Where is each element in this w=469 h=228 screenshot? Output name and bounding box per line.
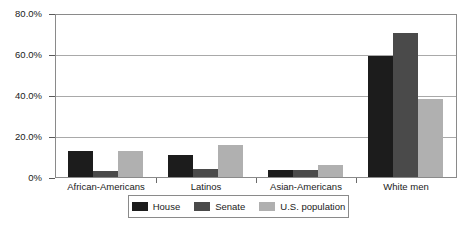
bar-chart: 80.0% 60.0% 40.0% 20.0% 0% [0,0,469,228]
x-axis-label-white-men: White men [356,181,456,193]
bar-house [168,155,193,177]
y-tick-label: 0% [28,173,42,183]
bar-house [68,151,93,177]
chart-legend: House Senate U.S. population [128,195,349,218]
bar-group-white-men [368,15,443,177]
bar-senate [193,169,218,177]
legend-item-us-population: U.S. population [259,202,345,212]
bar-house [268,170,293,177]
bar-us-population [418,99,443,177]
legend-label: Senate [215,202,245,212]
x-axis-label-asian-americans: Asian-Americans [256,181,356,193]
legend-item-house: House [132,202,180,212]
x-axis-label-latinos: Latinos [156,181,256,193]
bar-group-african-americans [68,15,143,177]
bar-us-population [218,145,243,177]
bar-us-population [118,151,143,177]
bar-senate [393,33,418,177]
legend-label: House [153,202,180,212]
x-axis-label-african-americans: African-Americans [56,181,156,193]
bar-senate [93,171,118,177]
bar-group-latinos [168,15,243,177]
legend-item-senate: Senate [194,202,245,212]
y-tick-label: 20.0% [15,132,42,142]
bar-senate [293,170,318,177]
y-tick-label: 40.0% [15,91,42,101]
y-tick-mark [49,178,55,179]
y-axis: 80.0% 60.0% 40.0% 20.0% 0% [0,0,52,228]
y-tick-label: 60.0% [15,50,42,60]
legend-swatch-icon [132,202,148,211]
bar-groups [56,15,456,177]
y-tick-label: 80.0% [15,9,42,19]
bar-us-population [318,165,343,177]
legend-swatch-icon [194,202,210,211]
bar-house [368,56,393,178]
bar-group-asian-americans [268,15,343,177]
legend-label: U.S. population [280,202,345,212]
legend-swatch-icon [259,202,275,211]
